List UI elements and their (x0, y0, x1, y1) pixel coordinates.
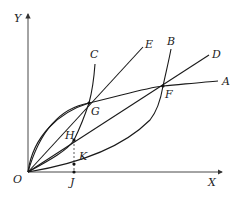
line-od (28, 55, 209, 172)
origin-label: O (13, 173, 22, 186)
label-c: C (90, 48, 99, 61)
label-f: F (164, 88, 173, 101)
label-d: D (211, 48, 221, 61)
label-k: K (78, 150, 88, 163)
diagram-canvas: Y X O C E B D A F G H K J (0, 0, 238, 199)
point-k (72, 162, 75, 165)
curve-oa (28, 81, 218, 172)
x-axis-label: X (207, 176, 217, 189)
label-a: A (221, 75, 230, 88)
y-axis-label: Y (14, 12, 23, 25)
label-g: G (91, 105, 100, 118)
label-b: B (166, 35, 175, 48)
point-j (72, 170, 75, 173)
label-j: J (68, 176, 75, 189)
label-e: E (144, 38, 153, 51)
label-h: H (64, 129, 75, 142)
